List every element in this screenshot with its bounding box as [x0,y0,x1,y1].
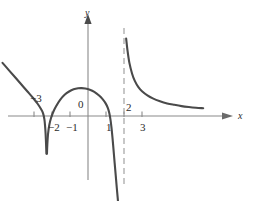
x-axis-label: x [238,111,242,121]
x-tick-label-1: 1 [106,122,112,133]
x-tick-label-3: 3 [140,122,146,133]
x-tick-label-minus-2: −2 [48,122,60,133]
x-tick-label-minus-1: −1 [66,122,78,133]
x-tick-label-minus-3: −3 [30,93,42,104]
x-tick-label-2: 2 [126,102,132,113]
function-curve-group [3,39,204,201]
curve-branch-right [126,39,203,109]
function-graph-figure: −3 −2 −1 1 2 3 0 x y [0,0,259,201]
origin-label: 0 [78,99,84,110]
curve-branch-left [3,63,47,154]
x-axis-arrow-icon [222,112,233,119]
y-axis-label: y [85,8,89,18]
